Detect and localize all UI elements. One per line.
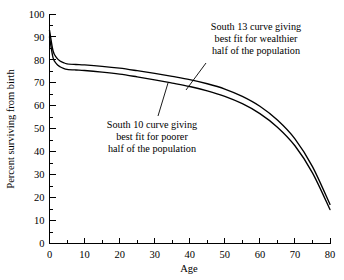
x-tick-label-80: 80 [325, 249, 336, 260]
x-tick-label-0: 0 [47, 249, 52, 260]
leader-line-south-10 [158, 83, 168, 116]
annotation-south-13-line-1: South 13 curve giving [211, 21, 301, 32]
annotation-south-10-line-2: best fit for poorer [116, 131, 188, 142]
x-tick-label-60: 60 [255, 249, 266, 260]
y-tick-label-20: 20 [34, 192, 45, 203]
y-axis-title: Percent surviving from birth [5, 69, 16, 189]
x-tick-label-50: 50 [220, 249, 231, 260]
curve-south-13 [50, 30, 331, 204]
y-tick-label-80: 80 [34, 55, 45, 66]
annotation-south-13-line-2: best fit for wealthier [215, 33, 298, 44]
y-tick-label-70: 70 [34, 77, 45, 88]
x-tick-label-30: 30 [149, 249, 160, 260]
y-tick-label-60: 60 [34, 100, 45, 111]
leader-line-south-13 [186, 63, 206, 90]
x-axis-title: Age [180, 263, 198, 274]
y-tick-label-50: 50 [34, 123, 45, 134]
annotation-south-10: South 10 curve giving best fit for poore… [107, 119, 197, 154]
annotation-south-13-line-3: half of the population [212, 45, 300, 56]
x-tick-label-20: 20 [114, 249, 125, 260]
y-tick-label-0: 0 [39, 238, 44, 249]
chart-canvas: 0102030405060708090100 01020304050607080… [0, 0, 344, 280]
x-tick-label-10: 10 [79, 249, 90, 260]
y-tick-label-40: 40 [34, 146, 45, 157]
y-tick-label-10: 10 [34, 215, 45, 226]
y-tick-label-30: 30 [34, 169, 45, 180]
survival-curve-figure: 0102030405060708090100 01020304050607080… [0, 0, 344, 280]
x-axis-ticks: 01020304050607080 [47, 238, 335, 260]
y-tick-label-90: 90 [34, 32, 45, 43]
annotation-south-10-line-3: half of the population [108, 143, 196, 154]
x-tick-label-70: 70 [290, 249, 301, 260]
annotation-south-10-line-1: South 10 curve giving [107, 119, 197, 130]
annotation-leaders [158, 63, 206, 116]
y-tick-label-100: 100 [29, 9, 45, 20]
x-tick-label-40: 40 [185, 249, 196, 260]
annotation-south-13: South 13 curve giving best fit for wealt… [211, 21, 301, 56]
